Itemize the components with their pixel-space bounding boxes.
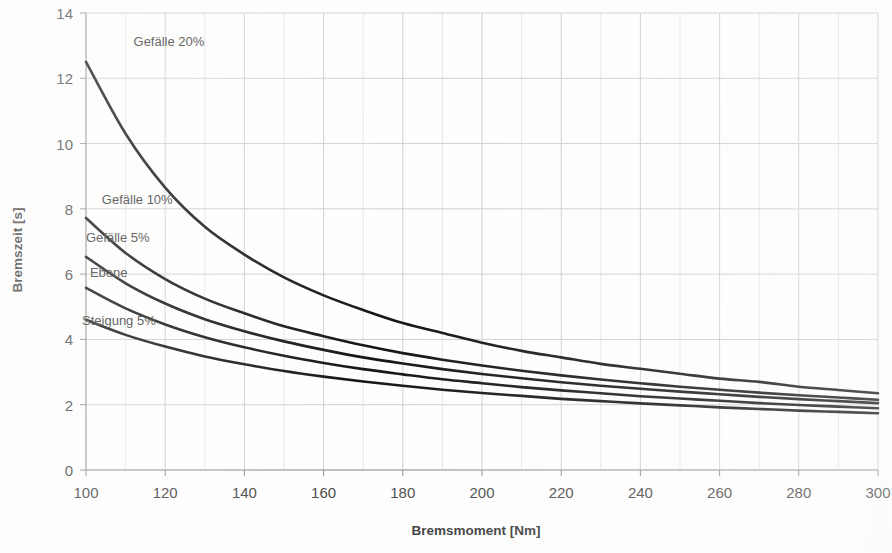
y-tick-label: 4 (65, 331, 73, 348)
y-axis-title: Bremszeit [s] (10, 208, 25, 293)
series-label-1: Gefälle 10% (102, 192, 173, 207)
x-tick-label: 300 (865, 484, 890, 501)
y-tick-label: 10 (56, 136, 73, 153)
series-label-2: Gefälle 5% (86, 230, 150, 245)
x-tick-label: 280 (786, 484, 811, 501)
y-tick-label: 6 (65, 266, 73, 283)
x-tick-label: 260 (707, 484, 732, 501)
braking-time-line-chart: 100120140160180200220240260280300 024681… (0, 0, 892, 553)
chart-figure: 100120140160180200220240260280300 024681… (0, 0, 892, 553)
x-tick-label: 100 (73, 484, 98, 501)
x-tick-label: 120 (153, 484, 178, 501)
x-axis-title: Bremsmoment [Nm] (411, 523, 540, 538)
y-tick-label: 8 (65, 201, 73, 218)
series-label-0: Gefälle 20% (134, 34, 205, 49)
x-tick-label: 140 (232, 484, 257, 501)
x-tick-label: 160 (311, 484, 336, 501)
series-label-4: Steigung 5% (82, 313, 156, 328)
y-tick-label: 2 (65, 397, 73, 414)
y-tick-label: 0 (65, 462, 73, 479)
y-tick-label: 12 (56, 70, 73, 87)
series-label-3: Ebene (90, 265, 128, 280)
x-tick-label: 180 (390, 484, 415, 501)
x-tick-label: 240 (628, 484, 653, 501)
y-tick-label: 14 (56, 5, 73, 22)
x-tick-label: 200 (469, 484, 494, 501)
x-tick-label: 220 (549, 484, 574, 501)
